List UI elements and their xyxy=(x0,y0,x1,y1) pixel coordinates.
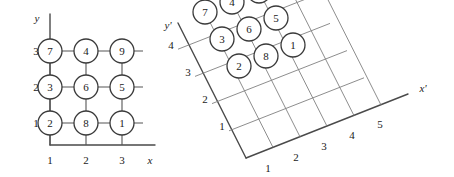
right-xtick-4: 4 xyxy=(349,129,355,141)
orthogonal-grid-panel: 7 4 9 3 6 5 2 8 1 1 2 3 1 2 3 y x xyxy=(33,12,155,166)
left-node-label: 4 xyxy=(83,45,89,57)
right-node-circle xyxy=(247,0,271,3)
right-xtick-2: 2 xyxy=(293,151,299,163)
right-node-group: 7 4 9 3 6 5 2 8 1 xyxy=(193,0,305,78)
right-ytick-3: 3 xyxy=(185,66,191,78)
left-node-label: 3 xyxy=(47,81,53,93)
figure-svg: 7 4 9 3 6 5 2 8 1 1 2 3 1 2 3 y x xyxy=(0,0,454,177)
right-node-label: 1 xyxy=(290,39,296,51)
right-ytick-1: 1 xyxy=(219,120,225,132)
left-node-label: 6 xyxy=(83,81,89,93)
left-node-label: 7 xyxy=(47,45,53,57)
right-node-label: 5 xyxy=(273,12,279,24)
right-xtick-1: 1 xyxy=(265,162,271,174)
left-ytick-2: 2 xyxy=(33,81,39,93)
right-x-axis-label: x' xyxy=(418,82,427,94)
right-ytick-2: 2 xyxy=(202,93,208,105)
left-ytick-1: 1 xyxy=(33,117,39,129)
right-node-label: 3 xyxy=(219,33,225,45)
skewed-grid-panel: 7 4 9 3 6 5 2 8 1 1 2 3 4 5 1 2 3 4 y' xyxy=(163,0,427,174)
left-node-label: 9 xyxy=(119,45,125,57)
left-xtick-1: 1 xyxy=(47,154,53,166)
left-node-label: 8 xyxy=(83,117,89,129)
right-y-axis-label: y' xyxy=(163,19,172,31)
right-gridline-yprime-1 xyxy=(229,78,364,131)
right-node-label: 2 xyxy=(236,60,242,72)
right-gridline-xprime-5 xyxy=(313,0,381,105)
figure-root: 7 4 9 3 6 5 2 8 1 1 2 3 1 2 3 y x xyxy=(0,0,454,177)
right-xtick-3: 3 xyxy=(321,140,327,152)
left-node-label: 1 xyxy=(119,117,125,129)
right-ytick-4: 4 xyxy=(168,39,174,51)
right-node-label: 8 xyxy=(263,50,269,62)
left-node-label: 2 xyxy=(47,117,53,129)
right-node-label: 6 xyxy=(246,23,252,35)
left-node-group: 7 4 9 3 6 5 2 8 1 xyxy=(38,39,134,135)
right-node-label: 7 xyxy=(202,6,208,18)
right-gridline-xprime-4 xyxy=(286,0,354,116)
left-xtick-3: 3 xyxy=(119,154,125,166)
left-x-axis-label: x xyxy=(147,154,153,166)
left-y-axis-label: y xyxy=(34,12,40,24)
left-ytick-3: 3 xyxy=(33,45,39,57)
left-node-label: 5 xyxy=(119,81,125,93)
left-xtick-2: 2 xyxy=(83,154,89,166)
right-node-label: 4 xyxy=(229,0,235,8)
right-xtick-5: 5 xyxy=(377,118,383,130)
